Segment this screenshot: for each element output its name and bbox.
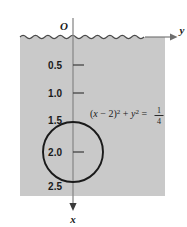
- tick-label-2-0: 2.0: [48, 147, 62, 158]
- x-axis-arrowhead: [69, 203, 76, 211]
- equation-fraction-denominator: 4: [157, 117, 161, 126]
- y-axis-label: y: [178, 24, 185, 36]
- tick-label-2-5: 2.5: [48, 181, 62, 192]
- tick-label-1-0: 1.0: [48, 88, 62, 99]
- equation-fraction-numerator: 1: [157, 106, 161, 115]
- x-axis-label: x: [69, 213, 76, 225]
- math-figure: 0.5 1.0 1.5 2.0 2.5 O y x (x − 2)2 + y2 …: [0, 0, 187, 227]
- origin-label: O: [60, 20, 68, 32]
- equation-plus: +: [120, 108, 131, 119]
- equation-equals: =: [139, 108, 148, 119]
- tick-label-1-5: 1.5: [48, 115, 62, 126]
- tick-label-0-5: 0.5: [48, 60, 62, 71]
- equation-minus-two: − 2: [98, 108, 114, 119]
- y-axis-arrowhead: [170, 33, 178, 40]
- figure-canvas: 0.5 1.0 1.5 2.0 2.5 O y x (x − 2)2 + y2 …: [0, 0, 187, 227]
